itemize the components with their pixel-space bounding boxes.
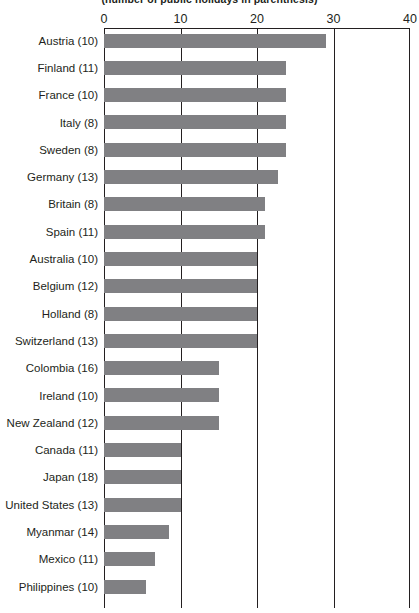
category-label: Belgium (12) [0, 279, 98, 293]
category-label: Colombia (16) [0, 361, 98, 375]
bar-row[interactable] [104, 55, 410, 82]
category-label: Ireland (10) [0, 389, 98, 403]
x-tick-label: 30 [327, 12, 341, 26]
plot-area [104, 28, 410, 608]
category-label: Finland (11) [0, 61, 98, 75]
category-label: Sweden (8) [0, 143, 98, 157]
bar-row[interactable] [104, 192, 410, 219]
bar[interactable] [104, 88, 286, 102]
category-label: Canada (11) [0, 443, 98, 457]
bar[interactable] [104, 252, 257, 266]
bar[interactable] [104, 61, 286, 75]
x-tick-label: 10 [174, 12, 188, 26]
bar[interactable] [104, 416, 219, 430]
bar[interactable] [104, 334, 257, 348]
category-label: Mexico (11) [0, 552, 98, 566]
bar[interactable] [104, 525, 169, 539]
chart-title: (number of public holidays in parenthesi… [0, 0, 419, 5]
bar-row[interactable] [104, 301, 410, 328]
category-label: New Zealand (12) [0, 416, 98, 430]
bar-row[interactable] [104, 574, 410, 601]
category-label: Australia (10) [0, 252, 98, 266]
bar-row[interactable] [104, 328, 410, 355]
bar-row[interactable] [104, 410, 410, 437]
bar[interactable] [104, 143, 286, 157]
bar-row[interactable] [104, 110, 410, 137]
y-axis-category-labels: Austria (10)Finland (11)France (10)Italy… [0, 28, 98, 608]
x-tick-label: 20 [250, 12, 264, 26]
category-label: Holland (8) [0, 307, 98, 321]
x-tick-label: 40 [403, 12, 417, 26]
bar-row[interactable] [104, 492, 410, 519]
category-label: Germany (13) [0, 170, 98, 184]
bar-row[interactable] [104, 83, 410, 110]
bar[interactable] [104, 388, 219, 402]
category-label: Britain (8) [0, 197, 98, 211]
bar-row[interactable] [104, 383, 410, 410]
bar[interactable] [104, 279, 257, 293]
bar[interactable] [104, 443, 181, 457]
bar-row[interactable] [104, 547, 410, 574]
category-label: Italy (8) [0, 116, 98, 130]
bar[interactable] [104, 498, 181, 512]
bar-row[interactable] [104, 274, 410, 301]
bar-row[interactable] [104, 519, 410, 546]
bar[interactable] [104, 580, 146, 594]
bar-row[interactable] [104, 28, 410, 55]
bar[interactable] [104, 552, 155, 566]
category-label: Switzerland (13) [0, 334, 98, 348]
bar-chart: (number of public holidays in parenthesi… [0, 0, 419, 613]
bar-row[interactable] [104, 165, 410, 192]
bar-row[interactable] [104, 219, 410, 246]
bar-row[interactable] [104, 246, 410, 273]
bar-series [104, 28, 410, 608]
category-label: Spain (11) [0, 225, 98, 239]
category-label: Philippines (10) [0, 580, 98, 594]
bar[interactable] [104, 34, 326, 48]
bar-row[interactable] [104, 465, 410, 492]
category-label: France (10) [0, 88, 98, 102]
bar-row[interactable] [104, 438, 410, 465]
category-label: Japan (18) [0, 470, 98, 484]
bar[interactable] [104, 225, 265, 239]
x-tick-label: 0 [101, 12, 108, 26]
bar[interactable] [104, 307, 257, 321]
bar[interactable] [104, 361, 219, 375]
x-axis-tick-labels: 010203040 [0, 12, 419, 28]
bar[interactable] [104, 170, 278, 184]
category-label: Austria (10) [0, 34, 98, 48]
bar[interactable] [104, 197, 265, 211]
bar-row[interactable] [104, 356, 410, 383]
bar[interactable] [104, 470, 181, 484]
category-label: United States (13) [0, 498, 98, 512]
bar[interactable] [104, 115, 286, 129]
bar-row[interactable] [104, 137, 410, 164]
category-label: Myanmar (14) [0, 525, 98, 539]
